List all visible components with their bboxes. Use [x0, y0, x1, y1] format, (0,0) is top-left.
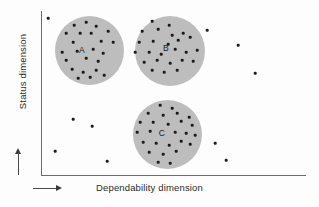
data-point-outlier [206, 29, 209, 32]
data-point [112, 41, 115, 44]
data-point [180, 140, 183, 143]
data-point [189, 143, 192, 146]
data-point [147, 112, 150, 115]
data-point [72, 41, 75, 44]
data-point [174, 48, 177, 51]
data-point [151, 69, 154, 72]
data-point [95, 25, 98, 28]
data-point-outlier [237, 44, 240, 47]
data-point [136, 131, 139, 134]
y-axis-label: Status dimension [17, 24, 28, 120]
data-point [149, 130, 152, 133]
data-point [92, 48, 95, 51]
data-point [168, 24, 171, 27]
data-point [157, 161, 160, 164]
data-point-outlier [54, 150, 57, 153]
data-point [159, 104, 162, 107]
data-point [79, 32, 82, 35]
data-point [65, 59, 68, 62]
data-point [82, 71, 85, 74]
data-point [77, 77, 80, 80]
x-axis-line [41, 175, 306, 176]
data-point-outlier [254, 72, 257, 75]
data-point [103, 74, 106, 77]
data-point [196, 49, 199, 52]
data-point [151, 20, 154, 23]
cluster-a [55, 16, 124, 85]
data-point [162, 114, 165, 117]
data-point [85, 57, 88, 60]
data-point [141, 30, 144, 33]
data-point [177, 39, 180, 42]
data-point [90, 32, 93, 35]
data-point-outlier [106, 160, 109, 163]
data-point [176, 112, 179, 115]
data-point [148, 151, 151, 154]
data-point [100, 40, 103, 43]
data-point [174, 131, 177, 134]
data-point [76, 50, 79, 53]
data-point-outlier [214, 142, 217, 145]
data-point [171, 107, 174, 110]
cluster-b [135, 16, 205, 86]
cluster-c [133, 100, 202, 169]
data-point [102, 52, 105, 55]
data-point [73, 24, 76, 27]
data-point [168, 144, 171, 147]
data-point [148, 51, 151, 54]
data-point-outlier [72, 118, 75, 121]
data-point [180, 120, 183, 123]
data-point [171, 34, 174, 37]
data-point [85, 21, 88, 24]
y-axis-line [41, 11, 42, 175]
data-point [162, 153, 165, 156]
data-point [188, 116, 191, 119]
data-point [97, 60, 100, 63]
x-axis-direction-arrow-icon [33, 185, 62, 192]
data-point [185, 132, 188, 135]
data-point [185, 51, 188, 54]
cluster-label-c: C [159, 128, 165, 138]
data-point [134, 51, 137, 54]
data-point [138, 41, 141, 44]
data-point [107, 30, 110, 33]
data-point [157, 28, 160, 31]
scatter-plot-figure: Status dimension Dependability dimension… [0, 0, 319, 207]
data-point [89, 76, 92, 79]
data-point-outlier [47, 17, 50, 20]
data-point [71, 68, 74, 71]
y-axis-direction-arrow-icon [15, 148, 22, 175]
data-point [152, 121, 155, 124]
data-point [194, 134, 197, 137]
data-point [169, 162, 172, 165]
cluster-label-a: A [79, 45, 85, 55]
data-point [143, 61, 146, 64]
data-point [192, 60, 195, 63]
data-point [156, 59, 159, 62]
data-point [191, 124, 194, 127]
data-point [175, 150, 178, 153]
data-point [182, 32, 185, 35]
data-point-outlier [91, 125, 94, 128]
data-point [142, 141, 145, 144]
data-point [61, 51, 64, 54]
data-point [189, 36, 192, 39]
data-point [155, 142, 158, 145]
data-point-outlier [225, 159, 228, 162]
data-point [176, 69, 179, 72]
x-axis-label: Dependability dimension [96, 182, 203, 193]
data-point [152, 40, 155, 43]
data-point [167, 123, 170, 126]
data-point [139, 121, 142, 124]
data-point [167, 43, 170, 46]
data-point [169, 62, 172, 65]
data-point [65, 32, 68, 35]
data-point [163, 71, 166, 74]
data-point [160, 53, 163, 56]
data-point [95, 69, 98, 72]
data-point [181, 59, 184, 62]
